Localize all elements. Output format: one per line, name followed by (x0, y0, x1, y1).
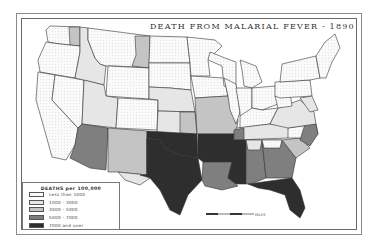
region-alabama-north (246, 140, 262, 150)
legend-swatch (29, 223, 44, 228)
legend-item: 5000 - 7000 (29, 214, 119, 222)
legend-swatch (29, 192, 44, 197)
legend-label: 7000 and over (49, 223, 83, 228)
legend-label: 1000 - 3000 (49, 200, 78, 205)
legend-swatch (29, 215, 44, 220)
map-title: DEATH FROM MALARIAL FEVER - 1890 (150, 22, 355, 31)
region-florida (248, 178, 305, 218)
region-new-york (280, 56, 320, 82)
region-arkansas (198, 134, 234, 162)
legend-label: 5000 - 7000 (49, 215, 78, 220)
region-ohio (252, 86, 278, 110)
legend-swatch (29, 200, 44, 205)
region-colorado (116, 98, 158, 130)
legend-label: Less than 1000 (49, 192, 85, 197)
region-michigan (240, 60, 262, 88)
scale-unit-label: MILES (255, 213, 265, 217)
region-washington-east (69, 27, 80, 46)
region-new-england (316, 34, 340, 78)
legend-item: 3000 - 5000 (29, 206, 119, 214)
region-georgia-north (262, 140, 282, 148)
region-pennsylvania (275, 80, 312, 98)
legend-item: 7000 and over (29, 221, 119, 229)
region-north-dakota (149, 36, 190, 63)
legend-swatch (29, 207, 44, 212)
legend-label: 3000 - 5000 (49, 207, 78, 212)
region-oregon (38, 42, 80, 78)
region-new-mexico (108, 128, 147, 175)
scale-bar: MILES (206, 209, 256, 219)
legend-item: 1000 - 3000 (29, 199, 119, 207)
region-iowa (191, 76, 228, 98)
legend-item: Less than 1000 (29, 191, 119, 199)
region-wyoming (106, 66, 149, 99)
region-south-dakota (149, 63, 191, 90)
legend: DEATHS per 100,000 Less than 1000 1000 -… (22, 182, 120, 230)
region-tennessee-west (234, 128, 244, 140)
region-kansas-east (180, 112, 197, 134)
